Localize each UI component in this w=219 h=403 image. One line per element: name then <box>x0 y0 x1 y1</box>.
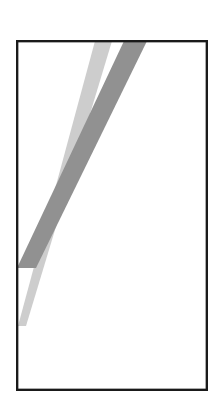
outer-margin-mask-right <box>208 0 219 403</box>
diagonal-bands-figure <box>0 0 219 403</box>
figure-canvas <box>0 0 219 403</box>
outer-margin-mask-bottom <box>0 391 219 403</box>
outer-margin-mask-top <box>0 0 219 40</box>
page-background <box>0 0 219 403</box>
outer-margin-mask-left <box>0 0 16 403</box>
